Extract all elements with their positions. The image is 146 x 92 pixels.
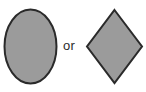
diamond-shape xyxy=(87,10,142,83)
ellipse-shape xyxy=(5,10,57,84)
figure-canvas: or xyxy=(0,0,146,92)
conjunction-or-label: or xyxy=(58,38,80,54)
